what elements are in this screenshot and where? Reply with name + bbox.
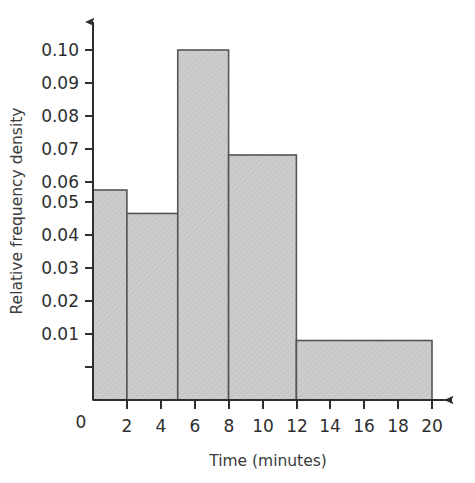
x-axis-tick-label: 18 bbox=[387, 416, 409, 436]
histogram-bar bbox=[93, 190, 127, 400]
x-axis-tick-label: 10 bbox=[252, 416, 274, 436]
y-axis-tick-label: 0.02 bbox=[41, 291, 79, 311]
y-axis-tick-label: 0.01 bbox=[41, 324, 79, 344]
histogram-bar bbox=[229, 155, 297, 400]
x-axis-tick-label: 6 bbox=[190, 416, 201, 436]
y-axis-tick-label: 0.03 bbox=[41, 258, 79, 278]
x-axis-tick-label: 12 bbox=[286, 416, 308, 436]
y-axis-tick-label: 0.05 bbox=[41, 192, 79, 212]
y-axis-tick-label: 0.08 bbox=[41, 106, 79, 126]
x-axis-tick-label: 8 bbox=[224, 416, 235, 436]
y-axis-tick-label: 0.04 bbox=[41, 225, 79, 245]
histogram-chart: 0.10 0.09 0.08 0.07 0.06 0.05 0.04 0.03 … bbox=[0, 0, 475, 483]
axis-origin-label: 0 bbox=[76, 412, 87, 432]
y-axis-tick-label: 0.10 bbox=[41, 40, 79, 60]
histogram-bar bbox=[296, 341, 432, 401]
histogram-bar bbox=[178, 50, 229, 400]
x-axis-title: Time (minutes) bbox=[208, 452, 327, 470]
y-axis-tick-labels: 0.10 0.09 0.08 0.07 0.06 0.05 0.04 0.03 … bbox=[41, 40, 79, 344]
y-axis-tick-label: 0.06 bbox=[41, 172, 79, 192]
x-axis-tick-label: 2 bbox=[122, 416, 133, 436]
x-axis-tick-label: 16 bbox=[353, 416, 375, 436]
chart-canvas: 0.10 0.09 0.08 0.07 0.06 0.05 0.04 0.03 … bbox=[0, 0, 475, 483]
x-axis-tick-label: 20 bbox=[421, 416, 443, 436]
y-axis-tick-label: 0.09 bbox=[41, 73, 79, 93]
x-axis-tick-label: 14 bbox=[319, 416, 341, 436]
histogram-bar bbox=[127, 213, 178, 400]
y-axis-tick-label: 0.07 bbox=[41, 139, 79, 159]
y-axis-title: Relative frequency density bbox=[8, 108, 26, 315]
x-axis-tick-label: 4 bbox=[156, 416, 167, 436]
